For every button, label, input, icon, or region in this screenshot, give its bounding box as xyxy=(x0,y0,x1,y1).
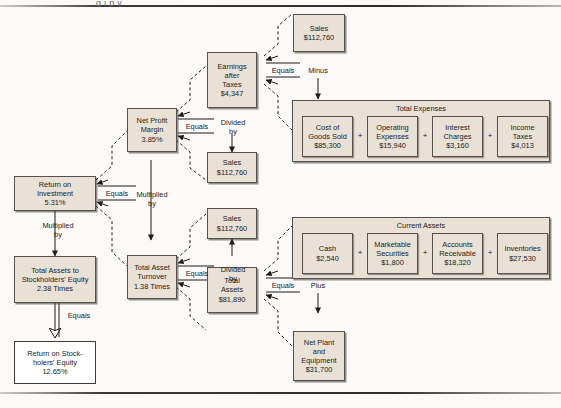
taxes-title: Income Taxes xyxy=(510,123,534,141)
label-multiplied-by-roi: Multiplied by xyxy=(38,221,78,239)
label-equals-tat: Equals xyxy=(180,269,214,278)
cash-value: $2,540 xyxy=(316,254,339,263)
label-equals-eat: Equals xyxy=(266,66,300,75)
opex-title: Operating Expenses xyxy=(376,123,408,141)
cogs-title: Cost of Goods Sold xyxy=(308,123,347,141)
npm-value: 3.85% xyxy=(137,135,168,144)
tae-value: 2.38 Times xyxy=(22,284,89,293)
sales-tat-value: $112,760 xyxy=(217,224,247,233)
group-total-expenses[interactable]: Total Expenses Cost of Goods Sold $85,30… xyxy=(292,100,550,162)
box-accounts-receivable[interactable]: Accounts Receivable $18,320 xyxy=(432,233,483,274)
label-divided-by-tat: Divided by xyxy=(214,265,252,283)
box-total-asset-turnover[interactable]: Total Asset Turnover 1.38 Times xyxy=(127,255,177,299)
tat-title: Total Asset Turnover xyxy=(134,263,170,281)
npm-title: Net Profit Margin xyxy=(137,116,168,134)
ta-value: $81,890 xyxy=(219,295,246,304)
label-equals-roi: Equals xyxy=(100,189,134,198)
label-divided-by-npm: Divided by xyxy=(214,118,252,136)
box-net-plant-and-equipment[interactable]: Net Plant and Equipment $31,700 xyxy=(293,331,345,381)
box-interest-charges[interactable]: Interest Charges $3,160 xyxy=(432,116,483,157)
bottom-rule xyxy=(0,392,561,394)
sales-top-title: Sales xyxy=(304,24,334,33)
box-total-assets-to-equity[interactable]: Total Assets to Stockholders' Equity 2.3… xyxy=(14,256,96,303)
box-cost-of-goods-sold[interactable]: Cost of Goods Sold $85,300 xyxy=(302,116,353,157)
sales-npm-value: $112,760 xyxy=(217,168,247,177)
page-header-text: g i p y xyxy=(96,0,396,7)
total-expenses-title: Total Expenses xyxy=(293,104,549,113)
ar-title: Accounts Receivable xyxy=(439,240,476,258)
plus-sign-expenses-1: + xyxy=(355,131,365,141)
plus-sign-assets-3: + xyxy=(485,248,495,258)
box-return-on-investment[interactable]: Return on Investment 5.31% xyxy=(14,176,96,211)
box-sales-top[interactable]: Sales $112,760 xyxy=(293,14,345,52)
label-plus-total-assets: Plus xyxy=(303,281,333,290)
npe-title: Net Plant and Equipment xyxy=(301,338,336,366)
tat-value: 1.38 Times xyxy=(134,282,170,291)
sales-npm-title: Sales xyxy=(217,158,247,167)
current-assets-title: Current Assets xyxy=(293,221,549,230)
label-equals-total-assets: Equals xyxy=(266,281,300,290)
cash-title: Cash xyxy=(316,244,339,253)
eat-title: Earnings after Taxes xyxy=(217,62,246,90)
label-equals-npm: Equals xyxy=(180,122,214,131)
ar-value: $18,320 xyxy=(439,258,476,267)
box-return-on-stockholders-equity[interactable]: Return on Stock- holers' Equity 12.65% xyxy=(14,341,96,384)
npe-value: $31,700 xyxy=(301,365,336,374)
sales-top-value: $112,760 xyxy=(304,33,334,42)
box-operating-expenses[interactable]: Operating Expenses $15,940 xyxy=(367,116,418,157)
label-multiplied-by-npm: Multiplied by xyxy=(131,190,173,208)
box-marketable-securities[interactable]: Marketable Securities $1,800 xyxy=(367,233,418,274)
interest-value: $3,160 xyxy=(444,141,472,150)
cogs-value: $85,300 xyxy=(308,141,347,150)
roi-title: Return on Investment xyxy=(37,180,73,198)
label-minus-eat: Minus xyxy=(301,66,335,75)
plus-sign-expenses-2: + xyxy=(420,131,430,141)
opex-value: $15,940 xyxy=(376,141,408,150)
ms-value: $1,800 xyxy=(374,258,411,267)
box-sales-total-asset-turnover[interactable]: Sales $112,760 xyxy=(207,208,257,239)
roi-value: 5.31% xyxy=(37,198,73,207)
roe-title: Return on Stock- holers' Equity xyxy=(27,349,82,367)
box-income-taxes[interactable]: Income Taxes $4,013 xyxy=(497,116,548,157)
box-sales-net-profit-margin[interactable]: Sales $112,760 xyxy=(207,152,257,183)
ms-title: Marketable Securities xyxy=(374,240,411,258)
inv-title: Inventories xyxy=(504,244,540,253)
label-equals-roe: Equals xyxy=(62,311,96,320)
group-current-assets[interactable]: Current Assets Cash $2,540 + Marketable … xyxy=(292,217,550,279)
plus-sign-expenses-3: + xyxy=(485,131,495,141)
sales-tat-title: Sales xyxy=(217,214,247,223)
du-pont-diagram: g i p y xyxy=(0,0,561,408)
box-cash[interactable]: Cash $2,540 xyxy=(302,233,353,274)
eat-value: $4,347 xyxy=(217,89,246,98)
plus-sign-assets-2: + xyxy=(420,248,430,258)
inv-value: $27,530 xyxy=(504,254,540,263)
roe-value: 12.65% xyxy=(27,367,82,376)
taxes-value: $4,013 xyxy=(510,141,534,150)
box-inventories[interactable]: Inventories $27,530 xyxy=(497,233,548,274)
plus-sign-assets-1: + xyxy=(355,248,365,258)
interest-title: Interest Charges xyxy=(444,123,472,141)
box-earnings-after-taxes[interactable]: Earnings after Taxes $4,347 xyxy=(207,52,257,108)
box-net-profit-margin[interactable]: Net Profit Margin 3.85% xyxy=(127,108,177,152)
tae-title: Total Assets to Stockholders' Equity xyxy=(22,266,89,284)
